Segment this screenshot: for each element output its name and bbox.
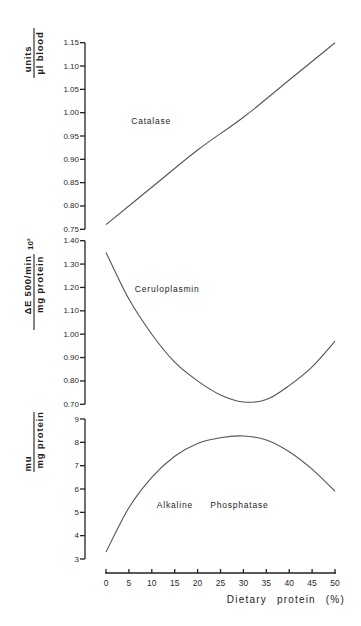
y-tick-label: 1.20 — [63, 283, 79, 292]
y-tick-label: 3 — [75, 555, 80, 564]
x-tick-label: 15 — [170, 578, 180, 588]
x-axis-title: Dietary protein (%) — [227, 594, 345, 605]
y-tick-label: 8 — [75, 438, 80, 447]
y-tick-label: 1.00 — [63, 108, 79, 117]
x-ticks: 05101520253035404550 — [104, 569, 340, 588]
y-tick-label: 0.80 — [63, 376, 79, 385]
x-tick-label: 50 — [330, 578, 340, 588]
y-axis-title-numerator: mu — [22, 456, 33, 472]
x-axis: 05101520253035404550 Dietary protein (%) — [104, 569, 345, 605]
x-tick-label: 35 — [262, 578, 272, 588]
y-axis-title-denominator: µl blood — [34, 31, 45, 74]
x-tick-label: 45 — [307, 578, 317, 588]
x-tick-label: 30 — [239, 578, 249, 588]
curve-label: Alkaline Phosphatase — [157, 500, 269, 510]
curve-catalase — [106, 43, 335, 225]
y-tick-label: 0.85 — [63, 178, 79, 187]
x-tick-label: 5 — [127, 578, 132, 588]
chart: 1.151.101.051.000.950.900.850.800.75unit… — [0, 0, 361, 626]
curve-label: Catalase — [131, 116, 171, 126]
y-tick-label: 7 — [75, 461, 80, 470]
y-axis-title-denominator: mg protein — [34, 256, 45, 313]
x-tick-label: 25 — [216, 578, 226, 588]
panel-ceruloplasmin: 1.401.301.201.101.000.900.800.70ΔE 500/m… — [22, 236, 335, 409]
panels: 1.151.101.051.000.950.900.850.800.75unit… — [22, 28, 335, 564]
y-tick-label: 0.80 — [63, 201, 79, 210]
y-tick-label: 5 — [75, 508, 80, 517]
y-tick-label: 1.10 — [63, 306, 79, 315]
x-tick-label: 40 — [284, 578, 294, 588]
panel-catalase: 1.151.101.051.000.950.900.850.800.75unit… — [22, 28, 335, 234]
curve-alkaline-phosphatase — [106, 436, 335, 552]
curve-ceruloplasmin — [106, 252, 335, 402]
x-tick-label: 20 — [193, 578, 203, 588]
x-tick-label: 0 — [104, 578, 109, 588]
panel-alkaline-phosphatase: 9876543mumg proteinAlkaline Phosphatase — [22, 411, 335, 563]
y-tick-label: 9 — [75, 415, 80, 424]
y-tick-label: 1.10 — [63, 62, 79, 71]
y-axis-title-denominator: mg protein — [34, 411, 45, 468]
y-tick-label: 0.75 — [63, 225, 79, 234]
y-tick-label: 0.70 — [63, 400, 79, 409]
y-tick-label: 1.15 — [63, 38, 79, 47]
curve-label: Ceruloplasmin — [135, 284, 200, 294]
y-tick-label: 0.90 — [63, 155, 79, 164]
y-tick-label: 0.90 — [63, 353, 79, 362]
y-tick-label: 1.40 — [63, 236, 79, 245]
y-axis-title: mumg protein — [22, 411, 45, 472]
y-tick-label: 6 — [75, 485, 80, 494]
y-tick-label: 4 — [75, 531, 80, 540]
y-axis-title-multiplier: 10² — [26, 238, 35, 250]
y-axis-title-numerator: ΔE 500/min — [22, 255, 33, 314]
x-tick-label: 10 — [147, 578, 157, 588]
y-axis-title-numerator: units — [22, 46, 33, 73]
y-tick-label: 1.00 — [63, 330, 79, 339]
y-tick-label: 1.05 — [63, 85, 79, 94]
y-tick-label: 0.95 — [63, 132, 79, 141]
y-axis-title: unitsµl blood — [22, 28, 45, 78]
y-tick-label: 1.30 — [63, 260, 79, 269]
y-axis-title: ΔE 500/minmg protein10² — [22, 238, 45, 330]
